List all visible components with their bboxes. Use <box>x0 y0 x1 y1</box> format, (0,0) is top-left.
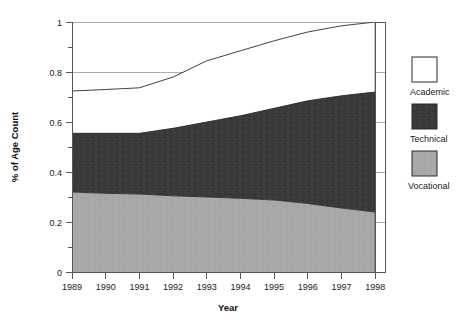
y-tick-label-0.4: 0.4 <box>49 168 62 178</box>
y-axis-title: % of Age Count <box>9 111 20 182</box>
legend-swatch-vocational <box>412 151 437 176</box>
legend-item-technical[interactable]: Technical <box>410 104 448 144</box>
plot-right-margin-box <box>375 22 386 272</box>
x-axis-title: Year <box>218 302 238 313</box>
area-chart-svg: 1 0.8 0.6 0.4 0.2 0 % of Age Count 1989 … <box>0 0 464 322</box>
y-axis: 1 0.8 0.6 0.4 0.2 0 % of Age Count <box>9 18 72 278</box>
y-tick-label-0.6: 0.6 <box>49 118 62 128</box>
x-tick-label-1995: 1995 <box>264 282 284 292</box>
chart-legend: Academic Technical Vocational <box>408 57 450 191</box>
plot-series-group <box>72 22 375 272</box>
x-tick-label-1990: 1990 <box>96 282 116 292</box>
legend-label-academic: Academic <box>410 87 450 97</box>
y-tick-label-0: 0 <box>57 268 62 278</box>
y-tick-label-0.2: 0.2 <box>49 218 62 228</box>
x-tick-label-1998: 1998 <box>365 282 385 292</box>
x-tick-label-1993: 1993 <box>197 282 217 292</box>
x-tick-label-1992: 1992 <box>163 282 183 292</box>
x-axis: 1989 1990 1991 1992 1993 1994 1995 1996 … <box>62 272 386 313</box>
legend-swatch-academic <box>412 57 437 82</box>
x-tick-label-1991: 1991 <box>129 282 149 292</box>
x-tick-label-1996: 1996 <box>298 282 318 292</box>
legend-item-vocational[interactable]: Vocational <box>408 151 450 191</box>
x-tick-label-1994: 1994 <box>230 282 250 292</box>
legend-label-vocational: Vocational <box>408 181 450 191</box>
x-tick-label-1989: 1989 <box>62 282 82 292</box>
x-tick-label-1997: 1997 <box>331 282 351 292</box>
legend-label-technical: Technical <box>410 134 448 144</box>
y-tick-label-1: 1 <box>57 18 62 28</box>
legend-item-academic[interactable]: Academic <box>410 57 450 97</box>
legend-swatch-technical <box>412 104 437 129</box>
chart-figure: 1 0.8 0.6 0.4 0.2 0 % of Age Count 1989 … <box>0 0 464 322</box>
y-tick-label-0.8: 0.8 <box>49 68 62 78</box>
